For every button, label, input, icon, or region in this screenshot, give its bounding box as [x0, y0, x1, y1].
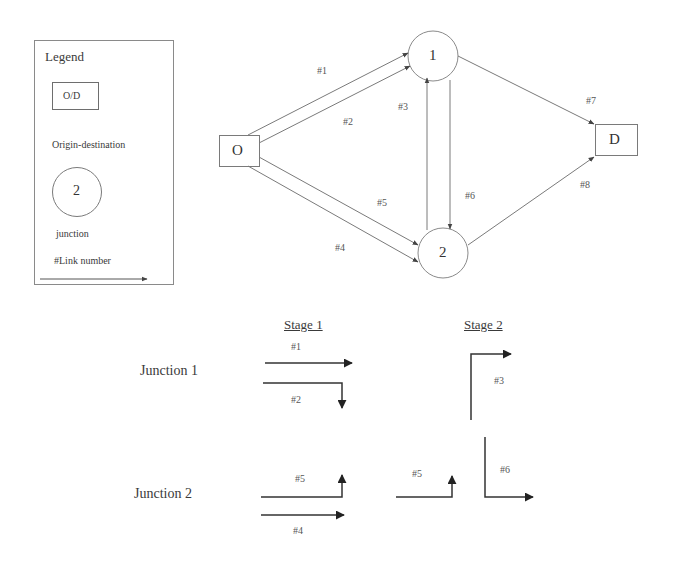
node-destination-label: D — [609, 132, 620, 147]
j1-s1-label-1: #1 — [291, 342, 301, 352]
link-5-label: #5 — [377, 198, 387, 208]
node-origin-label: O — [232, 143, 243, 158]
link-4 — [248, 166, 418, 262]
link-8-label: #8 — [580, 180, 590, 190]
legend-od-label: O/D — [63, 91, 80, 101]
link-5 — [259, 157, 418, 245]
link-2 — [259, 66, 410, 143]
network-graph — [220, 31, 638, 278]
stage-2-header: Stage 2 — [464, 318, 503, 331]
link-3-label: #3 — [398, 102, 408, 112]
j1-s2-movement-3 — [471, 354, 511, 420]
signal-stage-diagrams — [261, 354, 533, 515]
stage-1-header: Stage 1 — [284, 318, 323, 331]
node-junction-1-label: 1 — [429, 48, 437, 63]
j2-s2-label-5: #5 — [412, 469, 422, 479]
j2-s1-label-4: #4 — [293, 526, 303, 536]
traffic-network-diagram: Legend O/D Origin-destination 2 junction… — [0, 0, 674, 562]
link-7-label: #7 — [586, 96, 596, 106]
junction-1-label: Junction 1 — [140, 364, 198, 378]
legend-od-caption: Origin-destination — [52, 140, 125, 150]
j1-s1-label-2: #2 — [291, 395, 301, 405]
j2-s1-label-5: #5 — [295, 474, 305, 484]
link-4-label: #4 — [335, 243, 345, 253]
diagram-graphics — [0, 0, 674, 562]
j2-s2-movement-5 — [396, 476, 452, 497]
j2-s2-label-6: #6 — [500, 465, 510, 475]
link-2-label: #2 — [343, 117, 353, 127]
link-6-label: #6 — [465, 191, 475, 201]
link-1-label: #1 — [317, 66, 327, 76]
legend-title: Legend — [45, 50, 84, 63]
legend-link-caption: #Link number — [54, 256, 111, 266]
junction-2-label: Junction 2 — [134, 487, 192, 501]
j1-s2-label-3: #3 — [494, 376, 504, 386]
j1-s1-movement-2 — [263, 383, 342, 408]
legend-junction-label: 2 — [73, 184, 80, 198]
node-junction-2-label: 2 — [439, 245, 447, 260]
link-7 — [458, 56, 594, 124]
legend-panel — [35, 41, 174, 285]
legend-junction-caption: junction — [56, 229, 89, 239]
link-8 — [468, 157, 594, 245]
link-1 — [248, 53, 408, 135]
